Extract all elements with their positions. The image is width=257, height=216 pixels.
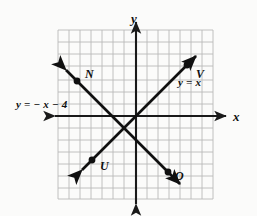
equation-label-neg-x-minus-4: y = − x − 4 (16, 99, 67, 110)
y-axis-label: y (131, 12, 137, 25)
point-u-label: U (100, 160, 109, 172)
point-v-label: V (196, 68, 204, 80)
point-v-dot (184, 62, 191, 69)
line-y-equals-neg-x-minus-4 (66, 70, 180, 184)
point-n-dot (74, 78, 81, 85)
point-u-dot (89, 157, 96, 164)
figure-container: y x y = − x − 4 y = x N V U O (0, 0, 257, 216)
point-n-label: N (85, 68, 94, 80)
point-o-label: O (175, 170, 184, 182)
point-o-dot (165, 169, 172, 176)
line-y-equals-x (82, 56, 196, 170)
x-axis-label: x (233, 110, 240, 123)
